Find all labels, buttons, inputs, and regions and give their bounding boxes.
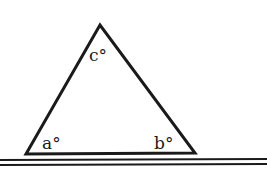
baseline-lower <box>0 164 267 165</box>
angle-label-b: b° <box>154 133 173 153</box>
baseline-upper <box>0 159 267 160</box>
angle-label-a: a° <box>42 133 61 153</box>
angle-label-c: c° <box>89 45 107 65</box>
triangle-diagram: c° a° b° <box>0 0 267 171</box>
